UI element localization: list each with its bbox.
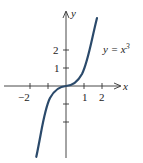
x-tick-label-neg2: −2	[18, 91, 30, 103]
x-axis-label: x	[122, 80, 128, 92]
cubic-function-plot: x y −2 1 2 2 1 y = x3	[0, 0, 143, 163]
x-tick-label-2: 2	[99, 91, 105, 103]
cubic-curve	[36, 18, 97, 157]
equation-label: y = x3	[102, 42, 130, 55]
equation-exponent: 3	[125, 42, 130, 51]
equation-base: y = x	[102, 43, 126, 55]
y-tick-label-2: 2	[53, 44, 59, 56]
y-axis-label: y	[70, 7, 76, 19]
x-tick-label-1: 1	[82, 91, 88, 103]
y-tick-label-1: 1	[54, 62, 60, 74]
